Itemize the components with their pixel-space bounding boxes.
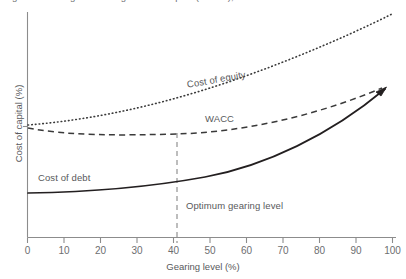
x-tick-label-0: 0	[13, 245, 43, 256]
x-tick-label-60: 60	[232, 245, 262, 256]
chart-plot-area	[0, 0, 406, 279]
chart-figure: Figure: The weighted average cost of cap…	[0, 0, 406, 279]
x-tick-label-70: 70	[268, 245, 298, 256]
x-tick-label-100: 100	[378, 245, 406, 256]
x-tick-label-80: 80	[305, 245, 335, 256]
x-tick-label-40: 40	[159, 245, 189, 256]
series-label-wacc: WACC	[205, 113, 234, 124]
x-tick-label-90: 90	[341, 245, 371, 256]
series-cost-of-equity	[28, 14, 392, 125]
y-axis-title: Cost of capital (%)	[13, 69, 24, 179]
series-label-cost-of-debt: Cost of debt	[38, 172, 90, 183]
x-tick-label-20: 20	[86, 245, 116, 256]
series-wacc	[28, 88, 382, 135]
x-axis-ticks	[28, 238, 393, 244]
x-axis-title: Gearing level (%)	[0, 261, 406, 272]
x-tick-label-50: 50	[195, 245, 225, 256]
annotation-optimum-gearing-level: Optimum gearing level	[186, 200, 283, 211]
x-tick-label-30: 30	[122, 245, 152, 256]
x-tick-label-10: 10	[49, 245, 79, 256]
